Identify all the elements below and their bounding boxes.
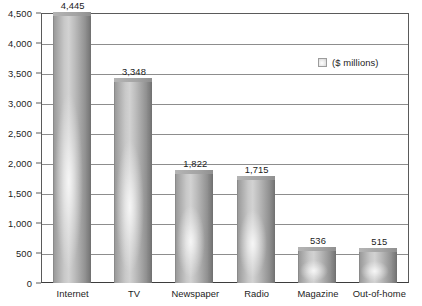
y-tick-label: 2,000 <box>8 158 32 169</box>
y-tick-label: 4,500 <box>8 8 32 19</box>
plot-area <box>41 13 409 283</box>
x-axis: InternetTVNewspaperRadioMagazineOut-of-h… <box>0 285 422 306</box>
gridline <box>42 104 408 105</box>
gridline <box>42 164 408 165</box>
x-tick-label: Out-of-home <box>353 288 406 299</box>
legend-label: ($ millions) <box>332 57 379 68</box>
y-axis: 4,500 4,000 3,500 3,000 2,500 2,000 1,50… <box>0 0 41 306</box>
y-tick-label: 4,000 <box>8 38 32 49</box>
gridline <box>42 134 408 135</box>
gridlines <box>42 14 408 282</box>
x-tick-label: Magazine <box>297 288 338 299</box>
x-tick-label: Radio <box>244 288 269 299</box>
bar-chart: 4,500 4,000 3,500 3,000 2,500 2,000 1,50… <box>0 0 422 306</box>
gridline <box>42 254 408 255</box>
gridline <box>42 44 408 45</box>
legend-swatch-icon <box>318 58 327 67</box>
y-tick-label: 3,000 <box>8 98 32 109</box>
gridline <box>42 74 408 75</box>
y-tick-label: 500 <box>16 248 32 259</box>
x-tick-label: TV <box>128 288 140 299</box>
gridline <box>42 194 408 195</box>
gridline <box>42 224 408 225</box>
x-tick-label: Internet <box>57 288 89 299</box>
y-tick-label: 2,500 <box>8 128 32 139</box>
chart-legend: ($ millions) <box>317 56 381 69</box>
y-tick-label: 3,500 <box>8 68 32 79</box>
bar-value-label: 4,445 <box>61 0 85 11</box>
y-tick-label: 1,500 <box>8 188 32 199</box>
x-tick-label: Newspaper <box>171 288 219 299</box>
y-tick-label: 1,000 <box>8 218 32 229</box>
